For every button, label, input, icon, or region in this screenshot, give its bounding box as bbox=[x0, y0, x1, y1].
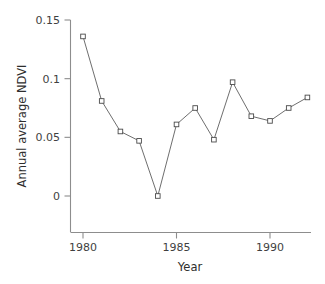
y-tick-label: 0.05 bbox=[36, 131, 61, 144]
data-point-marker bbox=[305, 95, 310, 100]
data-point-marker bbox=[286, 106, 291, 111]
data-point-marker bbox=[137, 139, 142, 144]
data-point-marker bbox=[268, 119, 273, 124]
data-point-marker bbox=[193, 106, 198, 111]
x-axis-ticks bbox=[83, 233, 270, 239]
y-axis-title: Annual average NDVI bbox=[15, 65, 29, 188]
x-axis-tick-labels: 198019851990 bbox=[69, 241, 284, 254]
y-tick-label: 0.15 bbox=[36, 14, 61, 27]
y-axis-tick-labels: 00.050.10.15 bbox=[36, 14, 61, 203]
data-point-marker bbox=[212, 137, 217, 142]
y-axis-ticks bbox=[65, 20, 71, 196]
ndvi-line-chart: 00.050.10.15 198019851990 Year Annual av… bbox=[0, 0, 325, 284]
chart-figure: 00.050.10.15 198019851990 Year Annual av… bbox=[0, 0, 325, 284]
y-tick-label: 0 bbox=[53, 190, 60, 203]
data-point-marker bbox=[230, 80, 235, 85]
data-point-marker bbox=[118, 129, 123, 134]
data-point-marker bbox=[156, 194, 161, 199]
data-point-marker bbox=[81, 34, 86, 39]
x-tick-label: 1990 bbox=[256, 241, 284, 254]
data-point-marker bbox=[249, 114, 254, 119]
y-tick-label: 0.1 bbox=[43, 73, 61, 86]
x-tick-label: 1980 bbox=[69, 241, 97, 254]
ndvi-data-markers bbox=[81, 34, 310, 198]
x-tick-label: 1985 bbox=[163, 241, 191, 254]
data-point-marker bbox=[174, 122, 179, 127]
ndvi-series-line bbox=[83, 36, 307, 196]
data-point-marker bbox=[99, 99, 104, 104]
x-axis-title: Year bbox=[177, 260, 203, 274]
